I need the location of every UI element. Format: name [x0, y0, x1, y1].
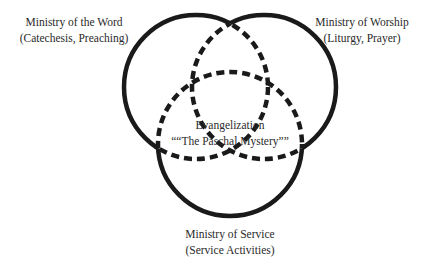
label-evangelization: Evangelization ““The Paschal Mystery”” — [165, 117, 295, 149]
label-service-title: Ministry of Service — [170, 226, 290, 242]
label-worship-subtitle: (Liturgy, Prayer) — [300, 30, 424, 46]
label-service-subtitle: (Service Activities) — [170, 242, 290, 258]
label-worship-title: Ministry of Worship — [300, 14, 424, 30]
label-center-title: Evangelization — [165, 117, 295, 133]
label-ministry-of-the-word: Ministry of the Word (Catechesis, Preach… — [18, 14, 130, 46]
label-word-subtitle: (Catechesis, Preaching) — [18, 30, 130, 46]
label-ministry-of-worship: Ministry of Worship (Liturgy, Prayer) — [300, 14, 424, 46]
label-word-title: Ministry of the Word — [18, 14, 130, 30]
label-ministry-of-service: Ministry of Service (Service Activities) — [170, 226, 290, 258]
label-center-subtitle: ““The Paschal Mystery”” — [165, 133, 295, 149]
